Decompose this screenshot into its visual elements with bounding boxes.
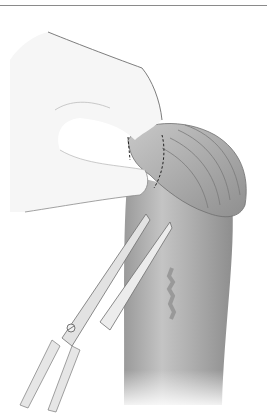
illustration xyxy=(0,0,267,416)
hand xyxy=(10,32,162,212)
